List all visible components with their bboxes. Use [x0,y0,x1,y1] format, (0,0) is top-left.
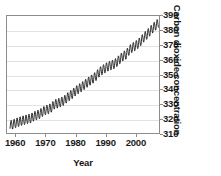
co2-data-line [10,20,159,129]
co2-curve [7,16,159,133]
x-axis-tick-mark [15,134,16,137]
y-axis-tick-mark [160,104,163,105]
x-axis-tick-mark [106,134,107,137]
x-axis-tick-label: 1970 [30,137,60,148]
x-axis-tick-mark [76,134,77,137]
y-axis-tick-mark [160,60,163,61]
x-axis-tick-label: 2000 [121,137,151,148]
x-axis-title: Year [6,157,160,168]
y-axis-tick-mark [160,119,163,120]
y-axis-tick-mark [160,30,163,31]
x-axis-tick-mark [45,134,46,137]
y-axis-tick-mark [160,15,163,16]
y-axis-tick-mark [160,45,163,46]
y-axis-title: Carbon dioxide concentration [168,0,186,140]
y-axis-tick-mark [160,75,163,76]
x-axis-tick-label: 1980 [61,137,91,148]
x-axis-tick-label: 1960 [0,137,30,148]
plot-area [6,15,160,134]
x-axis-tick-mark [136,134,137,137]
co2-concentration-chart: 390380370360350340330320310 Carbon dioxi… [0,0,221,176]
x-axis-tick-label: 1990 [91,137,121,148]
y-axis-tick-mark [160,89,163,90]
x-axis-tick-labels: 19601970198019902000 [0,137,170,149]
y-axis-tick-mark [160,134,163,135]
